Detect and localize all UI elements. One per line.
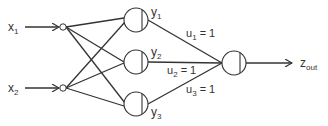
input-node-x2 bbox=[60, 85, 66, 91]
input-hidden-connections bbox=[66, 18, 125, 106]
label-x1: x1 bbox=[8, 20, 19, 36]
label-y1: y1 bbox=[151, 5, 162, 21]
input-node-x1 bbox=[60, 24, 66, 30]
label-zout: zout bbox=[300, 56, 318, 72]
label-u2: u2 = 1 bbox=[167, 64, 196, 79]
label-x2: x2 bbox=[8, 81, 19, 97]
neural-network-diagram: x1 x2 y1 y2 y3 u1 = 1 u2 = 1 u3 = 1 zout bbox=[0, 0, 328, 126]
hidden-neuron-y3 bbox=[124, 92, 148, 116]
label-u1: u1 = 1 bbox=[186, 27, 215, 42]
hidden-neuron-y2 bbox=[124, 50, 148, 74]
hidden-neuron-y1 bbox=[124, 8, 148, 32]
output-neuron bbox=[222, 51, 246, 75]
label-y3: y3 bbox=[151, 105, 162, 121]
label-u3: u3 = 1 bbox=[186, 83, 215, 98]
label-y2: y2 bbox=[151, 45, 162, 61]
